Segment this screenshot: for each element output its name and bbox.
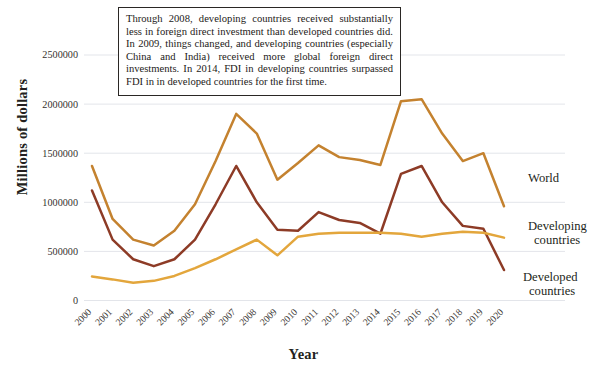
- x-axis-tick-label: 2009: [257, 306, 278, 327]
- x-axis-ticks: 2000200120022003200420052006200720082009…: [72, 306, 505, 327]
- x-axis-tick-label: 2019: [463, 306, 484, 327]
- x-axis-tick-label: 2002: [113, 306, 134, 327]
- y-axis-tick-label: 2500000: [42, 49, 78, 60]
- x-axis-tick-label: 2018: [443, 306, 464, 327]
- y-axis-tick-label: 0: [73, 295, 78, 306]
- y-axis-title-wrap: Millions of dollars: [13, 52, 31, 222]
- x-axis-tick-label: 2014: [360, 306, 381, 327]
- series-label-line: countries: [529, 284, 575, 298]
- x-axis-tick-label: 2006: [196, 306, 217, 327]
- series-line: [92, 99, 504, 245]
- x-axis-tick-label: 2001: [93, 306, 114, 327]
- series-line: [92, 166, 504, 270]
- x-axis-tick-label: 2011: [299, 306, 320, 327]
- x-axis-tick-label: 2016: [402, 306, 423, 327]
- series-label-developed: Developedcountries: [523, 270, 578, 298]
- x-axis-tick-label: 2017: [422, 306, 443, 327]
- series-label-line: Developing: [528, 219, 587, 233]
- y-axis-tick-label: 1000000: [42, 197, 78, 208]
- x-axis-tick-label: 2020: [484, 306, 505, 327]
- annotation-note-text: Through 2008, developing countries recei…: [126, 13, 393, 89]
- y-axis-ticks: 05000001000000150000020000002500000: [42, 49, 78, 306]
- x-axis-tick-label: 2004: [154, 306, 175, 327]
- x-axis-tick-label: 2010: [278, 306, 299, 327]
- series-labels: WorldDevelopingcountriesDevelopedcountri…: [523, 171, 587, 298]
- x-axis-tick-label: 2003: [134, 306, 155, 327]
- annotation-note-box: Through 2008, developing countries recei…: [118, 7, 401, 96]
- series-label-line: countries: [534, 233, 580, 247]
- data-series: [92, 99, 504, 283]
- series-label-world: World: [528, 171, 560, 185]
- chart-page: Through 2008, developing countries recei…: [0, 0, 607, 371]
- x-axis-tick-label: 2012: [319, 306, 340, 327]
- x-axis-tick-label: 2007: [216, 306, 237, 327]
- y-axis-tick-label: 2000000: [42, 99, 78, 110]
- x-axis-tick-label: 2008: [237, 306, 258, 327]
- y-axis-title: Millions of dollars: [14, 79, 30, 196]
- series-label-developing: Developingcountries: [528, 219, 587, 247]
- series-line: [92, 232, 504, 283]
- x-axis-tick-label: 2005: [175, 306, 196, 327]
- y-axis-tick-label: 500000: [47, 246, 78, 257]
- series-label-line: Developed: [523, 270, 578, 284]
- y-axis-tick-label: 1500000: [42, 148, 78, 159]
- x-axis-tick-label: 2013: [340, 306, 361, 327]
- x-axis-tick-label: 2015: [381, 306, 402, 327]
- series-label-line: World: [528, 171, 560, 185]
- x-axis-title-wrap: Year: [0, 345, 607, 363]
- x-axis-title: Year: [289, 346, 319, 362]
- x-axis-tick-label: 2000: [72, 306, 93, 327]
